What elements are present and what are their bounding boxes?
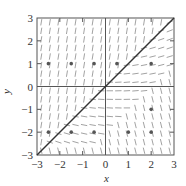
slope-segment	[41, 96, 42, 102]
data-points	[47, 62, 153, 134]
slope-segment	[160, 79, 162, 85]
slope-segment	[66, 105, 67, 111]
slope-segment	[135, 139, 137, 145]
slope-segment	[150, 47, 156, 49]
slope-segment	[152, 96, 154, 102]
y-tick-label: −3	[21, 149, 33, 161]
slope-segment	[101, 70, 102, 76]
slope-segment	[49, 148, 51, 154]
slope-segment	[152, 88, 154, 94]
slope-segment	[64, 133, 70, 135]
slope-segment	[109, 70, 110, 76]
slope-segment	[84, 19, 85, 25]
slope-segment	[101, 79, 102, 85]
slope-segment	[126, 45, 127, 51]
slope-segment	[158, 73, 164, 74]
slope-segment	[143, 122, 145, 128]
slope-segment	[152, 139, 154, 145]
slope-segment	[41, 139, 42, 145]
slope-segment	[109, 28, 110, 34]
slope-segment	[160, 130, 162, 136]
slope-segment	[100, 139, 102, 145]
slope-segment	[41, 53, 42, 59]
slope-segment	[169, 71, 171, 77]
slope-segment	[84, 96, 85, 102]
slope-segment	[98, 116, 104, 117]
slope-segment	[84, 79, 85, 85]
slope-segment	[149, 73, 155, 74]
slope-segment	[152, 122, 154, 128]
slope-segment	[90, 124, 96, 125]
slope-segment	[41, 130, 42, 136]
slope-segment	[58, 28, 59, 34]
slope-segment	[169, 148, 171, 154]
slope-segment	[64, 141, 70, 143]
slope-segment	[109, 148, 111, 154]
slope-segment	[81, 116, 87, 117]
slope-segment	[92, 19, 93, 25]
slope-segment	[49, 96, 50, 102]
slope-segment	[49, 113, 50, 119]
slope-segment	[135, 130, 137, 136]
x-tick-label: −1	[77, 158, 89, 170]
slope-segment	[132, 91, 138, 92]
slope-segment	[58, 105, 59, 111]
slope-segment	[98, 133, 104, 134]
slope-segment	[167, 30, 173, 32]
slope-segment	[84, 45, 85, 51]
slope-segment	[169, 113, 171, 119]
data-point	[127, 130, 131, 134]
slope-segment	[58, 88, 59, 94]
slope-segment	[66, 113, 67, 119]
slope-segment	[49, 45, 50, 51]
slope-segment	[101, 19, 102, 25]
slope-segment	[124, 73, 130, 74]
slope-segment	[58, 70, 59, 76]
slope-segment	[66, 70, 67, 76]
slope-segment	[124, 82, 130, 83]
slope-segment	[58, 122, 59, 128]
slope-segment	[141, 90, 147, 91]
y-tick-label: 0	[28, 81, 34, 93]
slope-segment	[144, 36, 145, 42]
x-axis-label: x	[103, 172, 109, 184]
slope-segment	[132, 82, 138, 83]
slope-segment	[144, 28, 145, 34]
slope-segment	[160, 113, 162, 119]
slope-segment	[118, 148, 120, 154]
slope-segment	[41, 36, 42, 42]
slope-segment	[92, 45, 93, 51]
slope-segment	[141, 82, 147, 83]
slope-segment	[49, 53, 50, 59]
y-tick-labels: −3−2−10123	[21, 12, 33, 161]
y-tick-label: 1	[28, 58, 34, 70]
slope-field-chart: −3−2−10123 −3−2−10123 x y	[0, 0, 186, 186]
slope-segment	[49, 19, 50, 25]
slope-segment	[92, 148, 94, 154]
slope-segment	[126, 139, 128, 145]
slope-segment	[158, 56, 164, 58]
slope-segment	[98, 125, 104, 126]
data-point	[92, 130, 96, 134]
y-tick-label: −1	[21, 103, 33, 115]
slope-segment	[41, 70, 42, 76]
slope-segment	[143, 139, 145, 145]
slope-segment	[41, 45, 42, 51]
slope-segment	[149, 82, 155, 83]
slope-segment	[126, 53, 127, 59]
slope-segment	[66, 28, 67, 34]
slope-segment	[160, 88, 162, 94]
slope-segment	[101, 45, 102, 51]
slope-segment	[141, 56, 147, 57]
slope-segment	[49, 105, 50, 111]
slope-segment	[84, 88, 85, 94]
slope-segment	[66, 36, 67, 42]
slope-segment	[169, 122, 171, 128]
slope-segment	[126, 148, 128, 154]
slope-segment	[135, 45, 136, 51]
y-tick-label: −2	[21, 126, 33, 138]
slope-segment	[75, 105, 76, 111]
slope-segment	[92, 70, 93, 76]
y-axis-label: y	[0, 89, 12, 95]
slope-segment	[160, 139, 162, 145]
